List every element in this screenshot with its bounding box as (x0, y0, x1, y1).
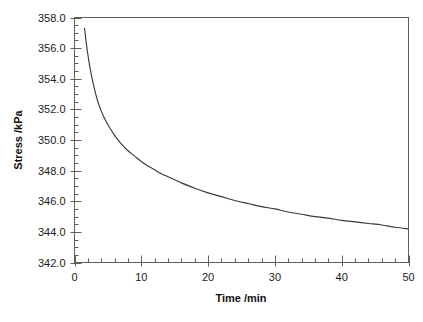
y-axis-tick-label: 342.0 (38, 257, 66, 269)
y-axis-tick-label: 346.0 (38, 195, 66, 207)
x-axis-tick-label: 20 (202, 271, 214, 283)
chart-figure: 342.0344.0346.0348.0350.0352.0354.0356.0… (0, 0, 423, 322)
y-axis-tick-labels: 342.0344.0346.0348.0350.0352.0354.0356.0… (38, 12, 66, 269)
y-axis-tick-label: 354.0 (38, 73, 66, 85)
y-axis-tick-label: 348.0 (38, 165, 66, 177)
x-axis-tick-label: 30 (269, 271, 281, 283)
x-axis-tick-label: 10 (135, 271, 147, 283)
y-axis-tick-label: 344.0 (38, 226, 66, 238)
y-axis-tick-label: 350.0 (38, 134, 66, 146)
x-axis-tick-label: 0 (71, 271, 77, 283)
x-axis-tick-label: 40 (336, 271, 348, 283)
y-axis-tick-label: 356.0 (38, 42, 66, 54)
x-axis-tick-label: 50 (402, 271, 414, 283)
y-axis-title: Stress /kPa (12, 109, 24, 169)
y-axis-tick-label: 358.0 (38, 12, 66, 24)
x-axis-title: Time /min (215, 292, 266, 304)
stress-relaxation-chart: 342.0344.0346.0348.0350.0352.0354.0356.0… (0, 0, 423, 322)
y-axis-tick-label: 352.0 (38, 103, 66, 115)
